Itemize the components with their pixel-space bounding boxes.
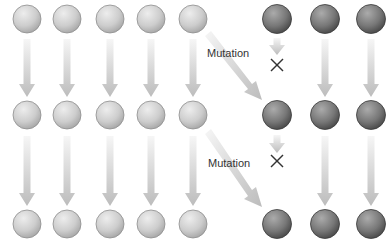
mutant-cell [311,101,340,130]
normal-cell [96,210,124,238]
mutation-diagram: Mutation Mutation [0,0,391,245]
inheritance-arrow [185,136,201,206]
mutant-cell [263,5,292,34]
inheritance-arrow [102,136,118,206]
normal-cell [13,101,41,129]
normal-cell [13,5,41,33]
arrows-gen2-to-gen3 [19,129,379,207]
inheritance-arrow [363,39,379,97]
mutant-cell [311,5,340,34]
mutant-cell [357,210,386,239]
mutant-cell [263,101,292,130]
normal-cell [179,101,207,129]
generation-2-row [13,101,386,130]
normal-cell [53,101,81,129]
normal-cell [96,5,124,33]
mutation-label: Mutation [208,157,250,169]
mutant-cell [263,210,292,239]
inheritance-arrow [363,136,379,206]
inheritance-arrow [19,136,35,206]
inheritance-arrow [102,39,118,97]
inheritance-arrow [19,39,35,97]
inheritance-arrow [59,39,75,97]
mutant-cell [357,5,386,34]
normal-cell [137,101,165,129]
normal-cell [179,5,207,33]
generation-3-row [13,210,386,239]
inheritance-arrow [317,136,333,206]
diagram-canvas [0,0,391,245]
mutant-cell [311,210,340,239]
normal-cell [179,210,207,238]
mutant-cell [357,101,386,130]
cross-mark-icon [271,155,283,167]
inheritance-arrow [317,39,333,97]
blocked-arrow [269,38,285,55]
inheritance-arrow [143,39,159,97]
generation-1-row [13,5,386,34]
normal-cell [137,5,165,33]
blocked-arrow [269,135,285,153]
normal-cell [53,210,81,238]
normal-cell [96,101,124,129]
inheritance-arrow [143,136,159,206]
arrows-gen1-to-gen2 [19,31,379,100]
normal-cell [137,210,165,238]
normal-cell [13,210,41,238]
mutation-arrow [205,31,262,100]
inheritance-arrow [185,39,201,97]
mutation-label: Mutation [207,47,249,59]
cross-mark-icon [271,59,283,71]
normal-cell [53,5,81,33]
inheritance-arrow [59,136,75,206]
